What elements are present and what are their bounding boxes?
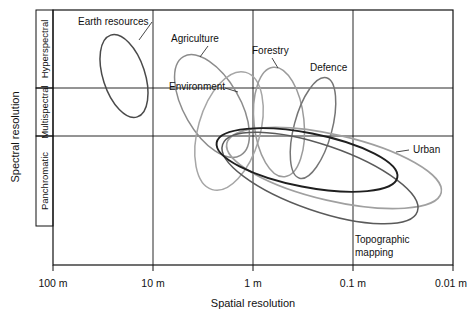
y-category-multispectral: Multispectral — [39, 85, 50, 138]
x-tick-label-10m: 10 m — [141, 277, 165, 289]
y-category-hyperspectral: Hyperspectral — [39, 20, 50, 79]
label-earth-resources: Earth resources — [78, 16, 149, 27]
y-category-panchromatic: Panchromatic — [39, 152, 50, 210]
spectral-vs-spatial-resolution-chart: Hyperspectral Multispectral Panchromatic… — [0, 0, 469, 315]
y-axis-title: Spectral resolution — [9, 91, 21, 182]
label-topographic-mapping-line1: Topographic — [355, 234, 409, 245]
label-environment: Environment — [169, 81, 225, 92]
label-agriculture: Agriculture — [171, 33, 219, 44]
label-defence: Defence — [310, 62, 348, 73]
x-tick-label-1m: 1 m — [244, 277, 262, 289]
label-forestry: Forestry — [252, 45, 289, 56]
x-tick-label-0.01m: 0.01 m — [435, 277, 467, 289]
x-tick-label-100m: 100 m — [38, 277, 67, 289]
x-axis-title: Spatial resolution — [211, 297, 295, 309]
label-topographic-mapping-line2: mapping — [355, 247, 393, 258]
x-tick-label-0.1m: 0.1 m — [340, 277, 367, 289]
chart-container: Hyperspectral Multispectral Panchromatic… — [0, 0, 469, 315]
label-urban: Urban — [413, 144, 440, 155]
